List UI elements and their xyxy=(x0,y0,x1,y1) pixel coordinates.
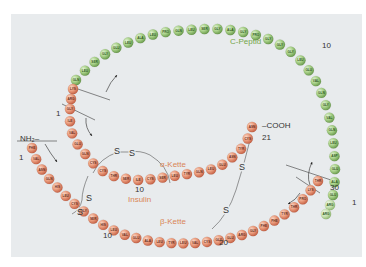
svg-text:GLY: GLY xyxy=(323,103,330,107)
svg-text:CYS: CYS xyxy=(99,169,106,173)
beta-chain-residue: VAL xyxy=(31,154,41,164)
svg-text:LYS: LYS xyxy=(70,87,76,91)
beta-chain-residue: LYS xyxy=(305,185,315,195)
svg-text:LEU: LEU xyxy=(125,41,132,45)
svg-text:GLN: GLN xyxy=(82,152,89,156)
svg-text:PRO: PRO xyxy=(162,30,169,34)
svg-text:THR: THR xyxy=(315,179,322,183)
c-peptide-residue: GLY xyxy=(100,49,110,59)
c-peptide-residue: GLN xyxy=(173,25,183,35)
beta-chain-residue: HIS xyxy=(52,182,62,192)
c-peptide-10-label: 10 xyxy=(322,41,331,50)
svg-text:LEU: LEU xyxy=(188,28,195,32)
svg-text:GLY: GLY xyxy=(214,27,221,31)
beta-chain-residue: ASN xyxy=(37,164,47,174)
svg-text:HIS: HIS xyxy=(55,185,60,189)
svg-text:ALA: ALA xyxy=(137,36,144,40)
alpha-chain-residue: GLU xyxy=(217,159,227,169)
alpha-chain-residue: LEU xyxy=(170,171,180,181)
alpha-chain-residue: GLU xyxy=(72,139,82,149)
svg-text:VAL: VAL xyxy=(122,233,128,237)
svg-text:GLU: GLU xyxy=(219,163,226,167)
c-peptide-residue: GLN xyxy=(316,88,326,98)
svg-text:PHE: PHE xyxy=(261,224,268,228)
alpha-chain-residue: LEU xyxy=(206,164,216,174)
svg-text:GLY: GLY xyxy=(288,50,295,54)
svg-text:CYS: CYS xyxy=(71,202,78,206)
svg-text:VAL: VAL xyxy=(69,131,75,135)
svg-text:GLU: GLU xyxy=(305,68,312,72)
svg-text:ILE: ILE xyxy=(68,119,73,123)
svg-text:SER: SER xyxy=(201,27,208,31)
alpha-chain-residue: TYR xyxy=(236,144,246,154)
beta-chain-residue: VAL xyxy=(120,230,130,240)
c-peptide-residue: VAL xyxy=(324,112,334,122)
linker-residue: LYS xyxy=(68,84,78,94)
svg-text:GLU: GLU xyxy=(227,236,234,240)
alpha-chain-residue: ASN xyxy=(227,152,237,162)
alpha-chain-residue: ASN xyxy=(247,122,257,132)
alpha-chain-residue: SER xyxy=(157,172,167,182)
c-peptide-1-label: 1 xyxy=(352,198,357,207)
svg-text:ALA: ALA xyxy=(145,239,152,243)
svg-text:VAL: VAL xyxy=(326,116,332,120)
svg-text:THR: THR xyxy=(111,174,118,178)
c-peptide-residue: GLN xyxy=(327,125,337,135)
alpha-chain-residue: ILE xyxy=(65,116,75,126)
cooh-label: –COOH xyxy=(262,121,291,130)
beta-chain-residue: HIS xyxy=(98,220,108,230)
arrow-to-cpeptide xyxy=(106,75,117,92)
linker-residue: ARG xyxy=(66,94,76,104)
svg-text:CYS: CYS xyxy=(204,240,211,244)
c-peptide-label: C-Peptid xyxy=(230,37,261,46)
svg-text:PRO: PRO xyxy=(299,197,306,201)
beta-chain-residue: GLY xyxy=(248,226,258,236)
svg-text:GLU: GLU xyxy=(330,193,337,197)
svg-text:GLU: GLU xyxy=(113,46,120,50)
alpha-start-label: 1 xyxy=(56,109,61,118)
arrow-alpha-start xyxy=(86,118,92,136)
svg-text:GLU: GLU xyxy=(332,167,339,171)
proinsulin-diagram: GLUALAGLUASPLEUGLNVALGLYGLNVALGLULEUGLYG… xyxy=(0,0,366,267)
alpha-chain-residue: SER xyxy=(121,173,131,183)
beta-chain-residue: PHE xyxy=(27,143,37,153)
svg-text:TYR: TYR xyxy=(184,172,191,176)
s-label-1: S xyxy=(114,146,120,156)
beta-chain-residue: LEU xyxy=(178,238,188,248)
beta-chain-residue: THR xyxy=(313,176,323,186)
svg-text:LEU: LEU xyxy=(297,58,304,62)
c-peptide-residue: GLY xyxy=(263,34,273,44)
svg-text:SER: SER xyxy=(123,177,130,181)
svg-text:VAL: VAL xyxy=(33,157,39,161)
svg-text:ALA: ALA xyxy=(227,28,234,32)
c-peptide-residue: LEU xyxy=(123,37,133,47)
c-peptide-residue: LEU xyxy=(148,29,158,39)
c-peptide-residue: SER xyxy=(199,24,209,34)
alpha-chain-residue: THR xyxy=(109,171,119,181)
beta-chain-residue: LEU xyxy=(61,191,71,201)
alpha-chain-residue: CYS xyxy=(98,166,108,176)
svg-text:ARG: ARG xyxy=(67,97,75,101)
c-peptide-residue: ALA xyxy=(225,25,235,35)
svg-text:GLN: GLN xyxy=(46,177,53,181)
alpha-chain-residue: GLY xyxy=(65,104,75,114)
c-peptide-residue: GLU xyxy=(304,65,314,75)
c-peptide-residue: LEU xyxy=(186,25,196,35)
beta-start-label: 1 xyxy=(19,153,24,162)
c-peptide-residue: GLY xyxy=(212,24,222,34)
beta-20-label: 20 xyxy=(219,238,228,247)
svg-text:LEU: LEU xyxy=(63,194,70,198)
c-peptide-residue: SER xyxy=(89,57,99,67)
beta-chain-residue: SER xyxy=(88,213,98,223)
svg-text:ARG: ARG xyxy=(322,212,330,216)
beta-chain-label: β-Kette xyxy=(160,217,186,226)
beta-chain-residue: ARG xyxy=(237,230,247,240)
svg-text:GLN: GLN xyxy=(318,91,325,95)
svg-text:GLU: GLU xyxy=(74,142,81,146)
svg-text:GLN: GLN xyxy=(73,78,80,82)
svg-text:ASN: ASN xyxy=(249,125,256,129)
s-label-2: S xyxy=(129,148,135,158)
beta-chain-residue: PRO xyxy=(298,194,308,204)
svg-text:GLN: GLN xyxy=(175,29,182,33)
beta-chain-residue: TYR xyxy=(166,238,176,248)
